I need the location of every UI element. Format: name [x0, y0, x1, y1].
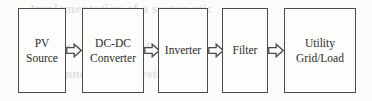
- block-pv-source-label: PV Source: [24, 36, 60, 65]
- block-filter[interactable]: Filter: [222, 8, 268, 93]
- diagram-content: PV Source DC-DC Converter Inverter Filte…: [0, 0, 372, 101]
- block-arrow-right-icon: [66, 43, 82, 58]
- block-dc-dc-converter-label: DC-DC Converter: [88, 36, 138, 65]
- block-dc-dc-converter[interactable]: DC-DC Converter: [82, 8, 144, 93]
- block-utility-grid-load-label: Utility Grid/Load: [294, 36, 346, 65]
- block-utility-grid-load[interactable]: Utility Grid/Load: [284, 8, 356, 93]
- block-pv-source[interactable]: PV Source: [18, 8, 66, 93]
- block-inverter-label: Inverter: [163, 43, 203, 58]
- block-inverter[interactable]: Inverter: [158, 8, 208, 93]
- block-arrow-right-icon: [268, 43, 284, 58]
- block-filter-label: Filter: [231, 43, 260, 58]
- block-diagram-canvas: Implementation of a systematic modelling…: [0, 0, 372, 101]
